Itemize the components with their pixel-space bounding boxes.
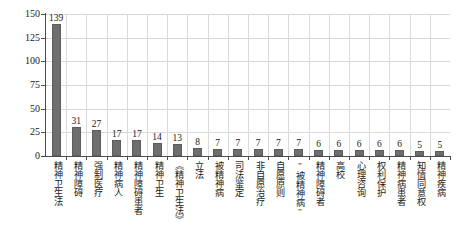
y-tick-label: 100 xyxy=(8,56,40,66)
x-category-label: 权利保护 xyxy=(373,161,386,197)
bar xyxy=(112,140,121,156)
y-tick-label: 125 xyxy=(8,33,40,43)
x-category-label: 精神障碍患者 xyxy=(130,161,143,215)
x-tick-mark xyxy=(248,156,249,160)
bar xyxy=(173,144,182,156)
x-category-label: 非自愿治疗 xyxy=(252,161,265,206)
x-category-label: 精神病人 xyxy=(110,161,123,197)
gridline-vertical xyxy=(248,14,249,156)
x-tick-mark xyxy=(329,156,330,160)
bar-chart: 文献数/篇 0255075100125150 13931271717141387… xyxy=(0,0,456,241)
x-category-label: 知情同意权 xyxy=(413,161,426,206)
gridline-vertical xyxy=(288,14,289,156)
x-category-label: 《精神卫生法》 xyxy=(171,161,184,224)
gridline-vertical xyxy=(268,14,269,156)
gridline-vertical xyxy=(86,14,87,156)
y-tick-mark xyxy=(41,85,46,86)
x-tick-mark xyxy=(349,156,350,160)
y-tick-mark xyxy=(41,109,46,110)
x-category-label: 精神卫生法 xyxy=(50,161,63,206)
x-category-label: 立法 xyxy=(191,161,204,179)
gridline-vertical xyxy=(66,14,67,156)
bar xyxy=(274,149,283,156)
x-tick-mark xyxy=(208,156,209,160)
x-tick-mark xyxy=(309,156,310,160)
y-tick-label: 25 xyxy=(8,127,40,137)
y-tick-label: 50 xyxy=(8,104,40,114)
gridline-vertical xyxy=(228,14,229,156)
gridline-vertical xyxy=(410,14,411,156)
x-tick-mark xyxy=(369,156,370,160)
gridline-vertical xyxy=(430,14,431,156)
bar xyxy=(52,24,61,156)
x-tick-mark xyxy=(107,156,108,160)
x-tick-mark xyxy=(86,156,87,160)
bar xyxy=(233,149,242,156)
bar-value-label: 139 xyxy=(44,13,68,23)
x-tick-mark xyxy=(268,156,269,160)
y-tick-mark xyxy=(41,61,46,62)
y-tick-mark xyxy=(41,156,46,157)
x-tick-mark xyxy=(66,156,67,160)
x-tick-mark xyxy=(430,156,431,160)
bar xyxy=(72,127,81,156)
x-category-label: 司法鉴定 xyxy=(231,161,244,197)
x-category-label: 被精神病 xyxy=(211,161,224,197)
x-tick-mark xyxy=(127,156,128,160)
bar xyxy=(132,140,141,156)
x-tick-mark xyxy=(450,156,451,160)
y-tick-label: 150 xyxy=(8,9,40,19)
bar xyxy=(254,149,263,156)
x-category-label: 精神卫生 xyxy=(151,161,164,197)
y-tick-mark xyxy=(41,38,46,39)
x-tick-mark xyxy=(147,156,148,160)
x-tick-mark xyxy=(167,156,168,160)
x-tick-mark xyxy=(288,156,289,160)
x-category-label: "被精神病" xyxy=(292,161,305,217)
x-category-label: 高校 xyxy=(332,161,345,179)
x-category-label: 精神疾病 xyxy=(433,161,446,197)
gridline-vertical xyxy=(329,14,330,156)
x-category-label: 精神障碍者 xyxy=(312,161,325,206)
gridline-vertical xyxy=(369,14,370,156)
x-tick-mark xyxy=(389,156,390,160)
y-tick-label: 75 xyxy=(8,80,40,90)
y-tick-label: 0 xyxy=(8,151,40,161)
x-category-label: 心理咨询 xyxy=(353,161,366,197)
gridline-vertical xyxy=(208,14,209,156)
x-tick-mark xyxy=(410,156,411,160)
x-category-label: 精神障碍 xyxy=(70,161,83,197)
gridline-vertical xyxy=(309,14,310,156)
bar xyxy=(193,148,202,156)
x-category-label: 自愿原则 xyxy=(272,161,285,197)
gridline-vertical xyxy=(389,14,390,156)
x-category-label: 精神病患者 xyxy=(393,161,406,206)
x-tick-mark xyxy=(187,156,188,160)
x-tick-mark xyxy=(228,156,229,160)
bar-value-label: 5 xyxy=(428,140,452,150)
bar xyxy=(213,149,222,156)
bar xyxy=(294,149,303,156)
bar xyxy=(153,143,162,156)
bar xyxy=(92,130,101,156)
x-category-label: 强制医疗 xyxy=(90,161,103,197)
gridline-vertical xyxy=(349,14,350,156)
y-tick-mark xyxy=(41,132,46,133)
